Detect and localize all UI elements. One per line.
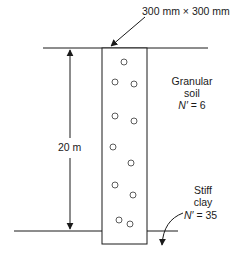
upper-layer-n-value: N′ = 6 <box>165 99 219 111</box>
lower-layer-label: Stiff clay <box>180 184 226 208</box>
stiff-clay-leader-arrow <box>162 213 183 245</box>
n-value: = 6 <box>191 99 206 111</box>
upper-layer-name-1: Granular <box>165 75 219 87</box>
n-symbol: N′ <box>178 99 188 111</box>
pile-size-label: 300 mm × 300 mm <box>142 5 230 17</box>
lower-layer-name-1: Stiff <box>180 184 226 196</box>
n-symbol: N′ <box>184 209 194 221</box>
pile <box>102 48 147 244</box>
upper-layer-label: Granular soil N′ = 6 <box>165 75 219 111</box>
upper-layer-name-2: soil <box>165 87 219 99</box>
pile-diagram <box>0 0 233 266</box>
depth-label: 20 m <box>57 141 82 153</box>
lower-layer-n-value: N′ = 35 <box>184 209 217 221</box>
lower-layer-name-2: clay <box>180 196 226 208</box>
n-value: = 35 <box>196 209 217 221</box>
pile-size-leader-arrow <box>111 17 145 46</box>
